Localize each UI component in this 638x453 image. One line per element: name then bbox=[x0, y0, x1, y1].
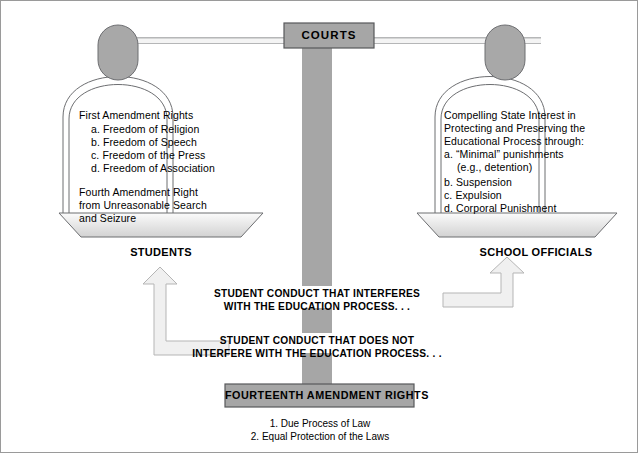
courts-label: COURTS bbox=[284, 29, 374, 41]
right-pan-item-c: c. Expulsion bbox=[444, 189, 502, 202]
left-pan-fourth-amendment-line1: Fourth Amendment Right bbox=[79, 186, 198, 199]
left-pan-item-b: b. Freedom of Speech bbox=[91, 136, 197, 149]
right-pan-item-b: b. Suspension bbox=[444, 176, 512, 189]
right-pan-heading-line2: Protecting and Preserving the bbox=[444, 122, 585, 135]
left-pan-item-d: d. Freedom of Association bbox=[91, 162, 215, 175]
right-up-arrow bbox=[443, 257, 524, 307]
footer-item-2: 2. Equal Protection of the Laws bbox=[220, 430, 420, 443]
left-pan-fourth-amendment-line3: and Seizure bbox=[79, 212, 136, 225]
caption-not-interfere-line1: STUDENT CONDUCT THAT DOES NOT bbox=[176, 334, 458, 348]
caption-interferes-line1: STUDENT CONDUCT THAT INTERFERES bbox=[197, 287, 437, 301]
scale-diagram-graphics bbox=[1, 1, 638, 453]
right-pan-item-a: a. “Minimal” punishments bbox=[444, 148, 564, 161]
right-pan bbox=[417, 213, 617, 237]
fourteenth-amendment-label: FOURTEENTH AMENDMENT RIGHTS bbox=[225, 389, 414, 401]
right-pan-heading-line1: Compelling State Interest in bbox=[444, 109, 576, 122]
left-pan-heading: First Amendment Rights bbox=[79, 109, 193, 122]
diagram-canvas: COURTS First Amendment Rights a. Freedom… bbox=[0, 0, 638, 453]
right-hanger bbox=[485, 25, 525, 80]
footer-item-1: 1. Due Process of Law bbox=[220, 417, 420, 430]
left-hanger bbox=[98, 25, 138, 80]
school-officials-label: SCHOOL OFFICIALS bbox=[456, 246, 616, 258]
right-pan-item-d: d. Corporal Punishment bbox=[444, 202, 557, 215]
right-pan-heading-line3: Educational Process through: bbox=[444, 135, 584, 148]
caption-interferes-line2: WITH THE EDUCATION PROCESS. . . bbox=[197, 300, 437, 314]
left-pan-item-c: c. Freedom of the Press bbox=[91, 149, 205, 162]
right-pan-item-a-sub: (e.g., detention) bbox=[457, 161, 532, 174]
caption-not-interfere-line2: INTERFERE WITH THE EDUCATION PROCESS. . … bbox=[176, 347, 458, 361]
left-pan-item-a: a. Freedom of Religion bbox=[91, 123, 199, 136]
students-label: STUDENTS bbox=[101, 246, 221, 258]
left-pan-fourth-amendment-line2: from Unreasonable Search bbox=[79, 199, 207, 212]
